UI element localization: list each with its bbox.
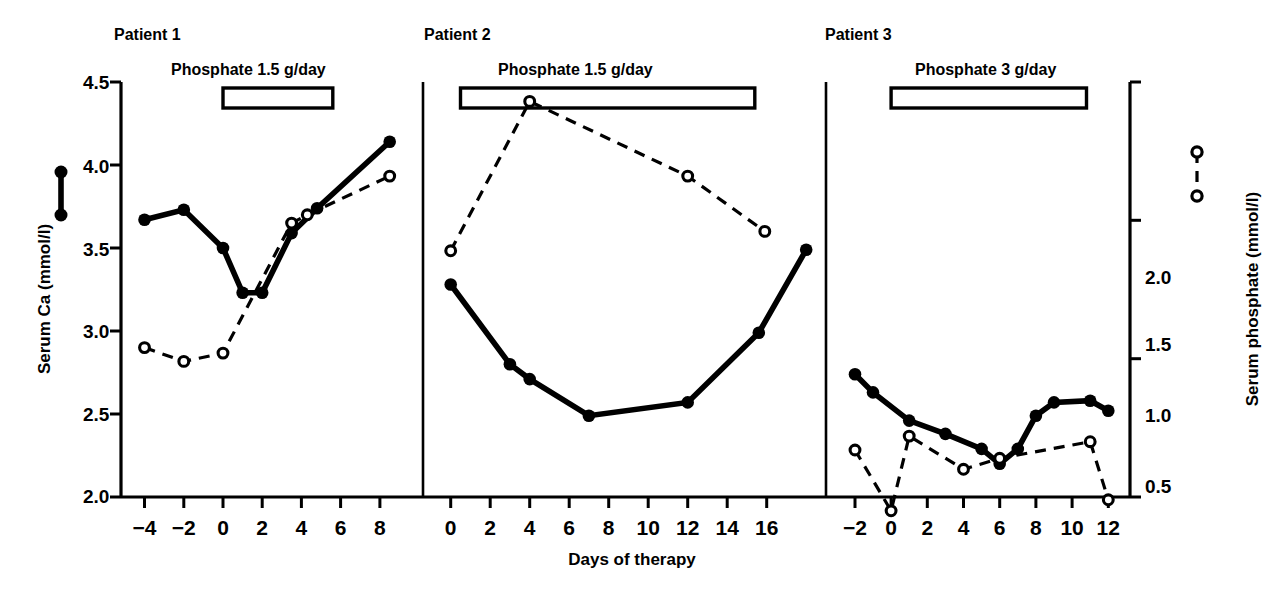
phosphate-data-point	[287, 218, 297, 228]
calcium-data-point	[1030, 409, 1043, 422]
legend-calcium-marker-top	[55, 166, 68, 179]
x-axis-tick-label: 8	[1030, 516, 1042, 539]
x-axis-tick-label: −2	[843, 516, 867, 539]
x-axis-tick-label: 2	[921, 516, 933, 539]
calcium-data-point	[138, 214, 151, 227]
phosphate-data-point	[850, 445, 860, 455]
calcium-data-point	[178, 204, 191, 217]
calcium-data-point	[800, 243, 813, 256]
calcium-data-point	[504, 358, 517, 371]
x-axis-tick-label: 16	[755, 516, 778, 539]
calcium-data-point	[523, 373, 536, 386]
calcium-data-point	[1102, 404, 1115, 417]
legend-calcium-marker-bottom	[55, 209, 68, 222]
calcium-data-point	[383, 136, 396, 149]
plot-canvas: −4−2024680246810121416−2024681012	[0, 0, 1264, 603]
phosphate-data-point	[886, 506, 896, 516]
x-axis-tick-label: 0	[885, 516, 897, 539]
phosphate-data-point	[385, 171, 395, 181]
phosphate-data-point	[1103, 495, 1113, 505]
x-axis-tick-label: 12	[676, 516, 699, 539]
calcium-data-point	[1048, 396, 1061, 409]
calcium-data-point	[681, 396, 694, 409]
calcium-data-point	[867, 386, 880, 399]
x-axis-tick-label: 14	[716, 516, 740, 539]
x-axis-tick-label: 0	[217, 516, 229, 539]
calcium-data-point	[753, 326, 766, 339]
phosphate-data-point	[1085, 437, 1095, 447]
x-axis-tick-label: 8	[374, 516, 386, 539]
calcium-data-point	[903, 414, 916, 427]
treatment-bar	[891, 88, 1086, 108]
x-axis-tick-label: 2	[256, 516, 268, 539]
x-axis-tick-label: 6	[994, 516, 1006, 539]
phosphate-data-point	[140, 343, 150, 353]
calcium-data-point	[939, 428, 952, 441]
treatment-bar	[461, 88, 755, 108]
x-axis-tick-label: 8	[603, 516, 615, 539]
phosphate-line	[451, 101, 765, 250]
x-axis-tick-label: −2	[172, 516, 196, 539]
phosphate-data-point	[446, 246, 456, 256]
figure-serum-calcium-phosphate: Patient 1 Patient 2 Patient 3 Phosphate …	[0, 0, 1264, 603]
x-axis-tick-label: 0	[445, 516, 457, 539]
calcium-data-point	[1084, 394, 1097, 407]
phosphate-data-point	[218, 348, 228, 358]
phosphate-data-point	[179, 357, 189, 367]
phosphate-data-point	[683, 171, 693, 181]
phosphate-data-point	[995, 453, 1005, 463]
phosphate-data-point	[760, 227, 770, 237]
x-axis-tick-label: 2	[484, 516, 496, 539]
x-axis-tick-label: −4	[133, 516, 157, 539]
x-axis-tick-label: 4	[296, 516, 308, 539]
calcium-data-point	[217, 242, 230, 255]
calcium-data-point	[444, 278, 457, 291]
calcium-data-point	[236, 287, 249, 300]
phosphate-data-point	[904, 431, 914, 441]
phosphate-line	[145, 176, 390, 361]
x-axis-tick-label: 6	[335, 516, 347, 539]
phosphate-data-point	[959, 464, 969, 474]
x-axis-tick-label: 12	[1097, 516, 1120, 539]
x-axis-tick-label: 4	[958, 516, 970, 539]
x-axis-tick-label: 10	[1060, 516, 1083, 539]
calcium-data-point	[849, 368, 862, 381]
legend-phosphate-marker-bottom	[1192, 191, 1202, 201]
x-axis-tick-label: 6	[563, 516, 575, 539]
treatment-bar	[223, 88, 333, 108]
calcium-data-point	[975, 443, 988, 456]
x-axis-tick-label: 10	[637, 516, 660, 539]
x-axis-tick-label: 4	[524, 516, 536, 539]
phosphate-data-point	[302, 210, 312, 220]
calcium-data-point	[583, 409, 596, 422]
legend-phosphate-marker-top	[1192, 147, 1202, 157]
phosphate-data-point	[525, 97, 535, 107]
